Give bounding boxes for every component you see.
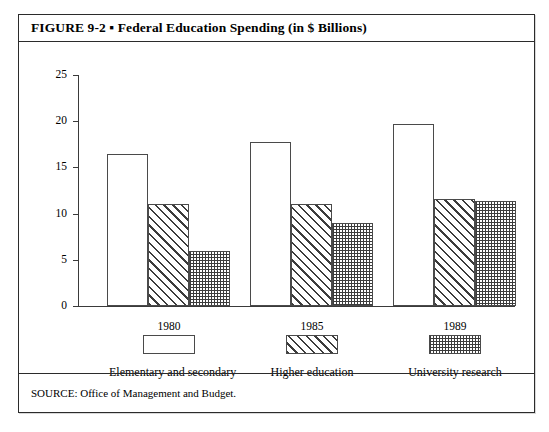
legend-year-label: 1985 bbox=[252, 320, 372, 332]
figure-title-bar: FIGURE 9-2 ▪ Federal Education Spending … bbox=[19, 15, 534, 42]
page-title: FIGURE 9-2 ▪ Federal Education Spending … bbox=[19, 20, 367, 36]
source-note: SOURCE: Office of Management and Budget. bbox=[19, 387, 236, 399]
legend-group: 1989University research bbox=[395, 320, 515, 380]
legend-group: 1980Elementary and secondary bbox=[109, 320, 229, 380]
legend-year-label: 1989 bbox=[395, 320, 515, 332]
legend-swatch-1989 bbox=[429, 335, 481, 354]
figure-frame: FIGURE 9-2 ▪ Federal Education Spending … bbox=[18, 14, 535, 413]
legend-swatch-1985 bbox=[286, 335, 338, 354]
chart-plot-area: 0510152025 1980Elementary and secondary1… bbox=[19, 42, 534, 375]
legend-swatch-1980 bbox=[143, 335, 195, 354]
legend-group: 1985Higher education bbox=[252, 320, 372, 380]
chart-legend: 1980Elementary and secondary1985Higher e… bbox=[19, 42, 534, 375]
legend-year-label: 1980 bbox=[109, 320, 229, 332]
source-strip: SOURCE: Office of Management and Budget. bbox=[19, 373, 534, 412]
